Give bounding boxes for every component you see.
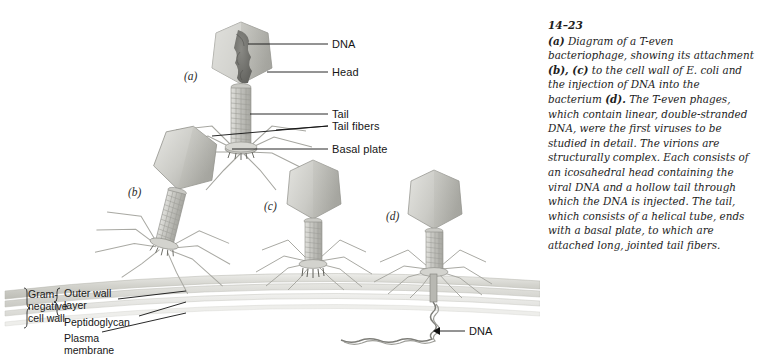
callout-head: Head xyxy=(332,66,359,79)
callout-dna-head: DNA xyxy=(332,38,356,51)
callout-dna-injected: DNA xyxy=(469,325,493,338)
panel-marker-b: (b) xyxy=(128,186,141,198)
panel-marker-d: (d) xyxy=(386,210,399,222)
panel-marker-c: (c) xyxy=(264,200,277,212)
plasma-membrane-label-line1: Plasma xyxy=(64,332,99,344)
phage-head-a xyxy=(212,22,272,84)
figure-caption-body: (a) Diagram of a T-even bacteriophage, s… xyxy=(548,35,754,251)
plasma-membrane-label-line2: membrane xyxy=(64,344,114,356)
phage-tail-d xyxy=(426,232,443,270)
injection-tube-d xyxy=(430,274,437,302)
gram-label-line3: cell wall xyxy=(28,312,68,324)
gram-label-line2: negative xyxy=(28,300,68,312)
basal-plate-c xyxy=(299,260,327,269)
figure-number: 14–23 xyxy=(548,18,756,33)
phage-tail-a xyxy=(231,88,251,146)
callout-basal-plate: Basal plate xyxy=(332,143,388,156)
callout-tail-fibers: Tail fibers xyxy=(332,120,380,133)
outer-wall-label-line1: Outer wall xyxy=(64,287,111,299)
figure-illustration: (a) (b) (c) (d) DNA Head Tail Tail fiber… xyxy=(0,0,540,361)
gram-label-line1: Gram- xyxy=(28,288,68,300)
peptidoglycan-label: Peptidoglycan xyxy=(64,316,130,328)
phage-c xyxy=(256,160,372,290)
figure-caption: 14–23 (a) Diagram of a T-even bacterioph… xyxy=(548,18,756,253)
panel-marker-a: (a) xyxy=(184,70,197,82)
gram-negative-wall-group: Gram- negative cell wall xyxy=(28,288,68,325)
phage-d xyxy=(341,170,492,344)
basal-plate-a xyxy=(225,142,257,160)
outer-wall-label-line2: layer xyxy=(64,299,87,311)
